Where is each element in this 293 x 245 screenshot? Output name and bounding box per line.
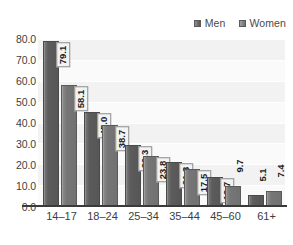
- bar-value-label: 9.7: [233, 161, 246, 171]
- square-swatch-icon: [194, 20, 201, 27]
- legend-item-men[interactable]: Men: [194, 18, 226, 29]
- bar-value-label: 79.1: [51, 48, 76, 62]
- bar-women[interactable]: 7.4: [266, 191, 282, 206]
- bar-chart: Men Women 80.0 70.0 60.0 50.0 40.0 30.0 …: [0, 0, 293, 245]
- y-axis-tick: 80.0: [2, 34, 36, 44]
- y-axis-tick: 10.0: [2, 181, 36, 191]
- bar-group: 21.3 17.5: [164, 39, 205, 206]
- x-axis-tick: 61+: [246, 210, 287, 223]
- bar-men[interactable]: 29.3: [125, 145, 141, 206]
- bar-men[interactable]: 13.7: [207, 177, 223, 206]
- bar-group: 79.1 58.1: [41, 39, 82, 206]
- x-axis-tick: 18–24: [82, 210, 123, 223]
- bar-men[interactable]: 45.0: [84, 112, 100, 206]
- x-axis-line: [22, 205, 287, 207]
- bar-women[interactable]: 58.1: [61, 85, 77, 206]
- square-swatch-icon: [239, 20, 246, 27]
- x-axis-tick: 35–44: [164, 210, 205, 223]
- legend-item-women[interactable]: Women: [239, 18, 287, 29]
- bar-men[interactable]: 21.3: [166, 162, 182, 206]
- x-axis: 14–17 18–24 25–34 35–44 45–60 61+: [38, 210, 285, 228]
- y-axis-tick: 0.0: [2, 202, 36, 212]
- bar-group: 13.7 9.7: [205, 39, 246, 206]
- bar-group: 29.3 23.8: [123, 39, 164, 206]
- legend-label-women: Women: [250, 18, 287, 29]
- bar-men[interactable]: 79.1: [43, 41, 59, 206]
- bar-women[interactable]: 38.7: [102, 125, 118, 206]
- y-axis-tick: 20.0: [2, 160, 36, 170]
- bar-women[interactable]: 17.5: [184, 169, 200, 206]
- bar-value-label: 5.1: [256, 170, 269, 180]
- y-axis-tick: 40.0: [2, 118, 36, 128]
- chart-legend: Men Women: [194, 17, 286, 30]
- bar-group: 5.1 7.4: [246, 39, 287, 206]
- x-axis-tick: 45–60: [205, 210, 246, 223]
- x-axis-tick: 25–34: [123, 210, 164, 223]
- bar-group: 45.0 38.7: [82, 39, 123, 206]
- y-axis-tick: 50.0: [2, 97, 36, 107]
- bar-value-label: 7.4: [274, 166, 287, 176]
- x-axis-tick: 14–17: [41, 210, 82, 223]
- y-axis-tick: 30.0: [2, 139, 36, 149]
- bar-series-container: 79.1 58.1 45.0 38.7: [38, 39, 285, 206]
- plot-area: 79.1 58.1 45.0 38.7: [38, 39, 285, 206]
- y-axis: 80.0 70.0 60.0 50.0 40.0 30.0 20.0 10.0 …: [0, 0, 36, 245]
- bar-women[interactable]: 9.7: [225, 186, 241, 206]
- y-axis-tick: 70.0: [2, 55, 36, 65]
- y-axis-tick: 60.0: [2, 76, 36, 86]
- bar-women[interactable]: 23.8: [143, 156, 159, 206]
- legend-label-men: Men: [205, 18, 226, 29]
